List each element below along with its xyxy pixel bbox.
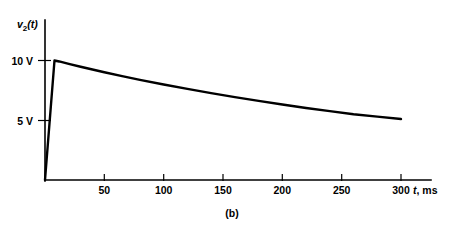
x-tick-label-50: 50	[98, 184, 110, 196]
y-tick-label-5v: 5 V	[17, 115, 33, 127]
x-axis-title-units: , ms	[417, 184, 438, 196]
waveform-curve	[45, 61, 401, 181]
figure-caption: (b)	[225, 207, 238, 219]
y-tick-label-10v: 10 V	[11, 55, 33, 67]
x-axis-title: t, ms	[413, 184, 438, 196]
y-axis-title-oft: (t)	[27, 18, 38, 30]
x-tick-label-100: 100	[155, 184, 173, 196]
x-tick-label-300: 300	[392, 184, 410, 196]
y-axis-title: v2(t)	[17, 18, 38, 33]
figure-container: 10 V 5 V 50 100 150 200 250 300 v2(t) t,…	[0, 0, 460, 231]
x-tick-label-250: 250	[333, 184, 351, 196]
x-tick-label-200: 200	[274, 184, 292, 196]
waveform-plot: 10 V 5 V 50 100 150 200 250 300 v2(t) t,…	[0, 0, 460, 231]
x-tick-label-150: 150	[214, 184, 232, 196]
